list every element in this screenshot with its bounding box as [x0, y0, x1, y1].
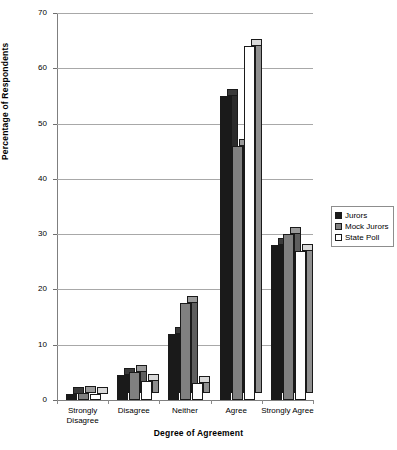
- bar-front-face: [66, 394, 77, 400]
- bar: [129, 372, 140, 400]
- bar-top-face: [85, 386, 96, 393]
- y-tick-label: 50: [21, 120, 47, 128]
- y-axis-title: Percentage of Respondents: [0, 43, 10, 160]
- bar-front-face: [244, 46, 255, 400]
- bar-top-face: [302, 244, 313, 251]
- bar-top-face: [290, 227, 301, 234]
- bar: [192, 383, 203, 400]
- bar-front-face: [90, 394, 101, 400]
- bar: [244, 46, 255, 400]
- x-tick-mark: [313, 400, 314, 404]
- bar-front-face: [168, 334, 179, 400]
- bar-side-face: [191, 296, 198, 393]
- y-tick-label: 10: [21, 341, 47, 349]
- bar: [220, 96, 231, 400]
- y-tick-label: 70: [21, 9, 47, 17]
- bar-top-face: [187, 296, 198, 303]
- bar: [283, 234, 294, 400]
- bar-front-face: [141, 381, 152, 400]
- bar: [78, 393, 89, 400]
- bar: [180, 303, 191, 400]
- x-axis-line: [57, 400, 314, 401]
- legend-item: State Poll: [335, 232, 389, 243]
- bar: [271, 245, 282, 400]
- x-tick-mark: [262, 400, 263, 404]
- y-tick-label: 40: [21, 175, 47, 183]
- legend-label: Jurors: [345, 211, 367, 220]
- y-tick-label: 30: [21, 230, 47, 238]
- y-tick-label: 20: [21, 285, 47, 293]
- bar-front-face: [295, 251, 306, 400]
- bar: [295, 251, 306, 400]
- bar-top-face: [148, 374, 159, 381]
- legend: JurorsMock JurorsState Poll: [331, 206, 394, 247]
- legend-swatch: [335, 212, 342, 219]
- bar-top-face: [199, 376, 210, 383]
- legend-swatch: [335, 223, 342, 230]
- bar-front-face: [283, 234, 294, 400]
- bar-front-face: [78, 393, 89, 400]
- bar: [66, 394, 77, 400]
- bar-front-face: [180, 303, 191, 400]
- bar-front-face: [129, 372, 140, 400]
- bar-top-face: [97, 387, 108, 394]
- bar-chart: 010203040506070 StronglyDisagreeDisagree…: [0, 0, 397, 450]
- bar-front-face: [220, 96, 231, 400]
- x-tick-mark: [211, 400, 212, 404]
- x-tick-mark: [57, 400, 58, 404]
- bar: [168, 334, 179, 400]
- x-tick-mark: [159, 400, 160, 404]
- bar: [117, 375, 128, 400]
- bar: [141, 381, 152, 400]
- legend-item: Jurors: [335, 210, 389, 221]
- bar-front-face: [117, 375, 128, 400]
- x-tick-mark: [108, 400, 109, 404]
- bar-front-face: [232, 146, 243, 400]
- bar-top-face: [251, 39, 262, 46]
- y-tick-label: 60: [21, 64, 47, 72]
- x-category-label-line: Strongly Agree: [252, 406, 323, 416]
- plot-area: [57, 13, 313, 400]
- x-category-label-line: Disagree: [47, 416, 118, 426]
- bar-front-face: [192, 383, 203, 400]
- bar: [90, 394, 101, 400]
- bar: [232, 146, 243, 400]
- y-axis-title-wrapper: Percentage of Respondents: [22, 0, 23, 1]
- legend-swatch: [335, 234, 342, 241]
- legend-label: Mock Jurors: [345, 222, 389, 231]
- x-axis-title: Degree of Agreement: [0, 428, 397, 438]
- legend-label: State Poll: [345, 233, 379, 242]
- legend-item: Mock Jurors: [335, 221, 389, 232]
- bar-top-face: [227, 89, 238, 96]
- bar-top-face: [136, 365, 147, 372]
- bar-side-face: [255, 39, 262, 393]
- bar-side-face: [306, 244, 313, 393]
- bar-front-face: [271, 245, 282, 400]
- x-category-label: Strongly Agree: [252, 406, 323, 416]
- y-tick-label: 0: [21, 396, 47, 404]
